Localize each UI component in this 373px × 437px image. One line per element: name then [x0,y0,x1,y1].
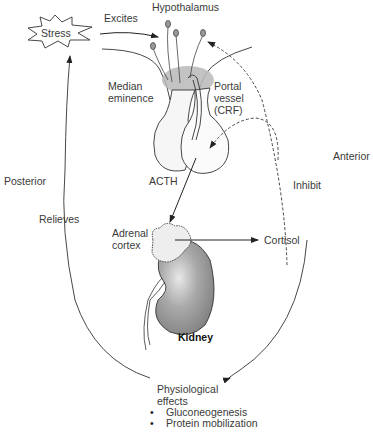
excites-label: Excites [104,12,138,24]
effect-item: Protein mobilization [150,418,258,429]
cortisol-to-effects-arrow [229,240,307,378]
posterior-label: Posterior [4,175,46,187]
portal-vessel-label: Portal vessel (CRF) [214,80,244,116]
hypothalamus-label: Hypothalamus [152,1,219,13]
stress-label: Stress [41,27,71,39]
relieves-label: Relieves [39,213,79,225]
median-eminence-label: Median eminence [108,80,154,104]
kidney-label: Kidney [178,331,213,343]
effects-list: Gluconeogenesis Protein mobilization [150,407,258,429]
physiological-effects-label: Physiological effects [157,383,218,407]
excites-arrow [100,33,158,37]
cortisol-label: Cortisol [264,234,300,246]
anterior-label: Anterior [333,150,370,162]
adrenal-cortex-label: Adrenal cortex [112,227,148,251]
inhibit-label: Inhibit [293,179,321,191]
acth-label: ACTH [149,175,178,187]
